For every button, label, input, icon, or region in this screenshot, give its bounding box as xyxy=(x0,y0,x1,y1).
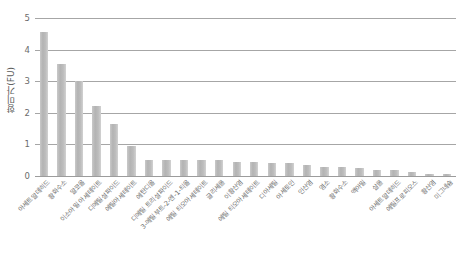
chart-container: 향미가(FU) 012345 아세트알데히드황화수소알코올이소아밀 아세테이트디… xyxy=(0,0,460,254)
bar xyxy=(40,32,48,176)
y-axis-tick-label: 4 xyxy=(25,45,30,55)
y-axis-title-text: 향미가(FU) xyxy=(4,67,17,113)
y-axis-tick-label: 1 xyxy=(25,139,30,149)
bar xyxy=(57,64,65,176)
y-axis-tick-label: 0 xyxy=(25,171,30,181)
bar xyxy=(268,163,276,176)
x-axis-tick-label: 살롤 xyxy=(372,179,385,192)
plot-area xyxy=(35,18,456,176)
x-axis-tick-label-text: 인산염 xyxy=(297,179,315,197)
y-axis-tick-label: 2 xyxy=(25,108,30,118)
bar xyxy=(92,106,100,176)
bar xyxy=(355,168,363,176)
bar xyxy=(338,167,346,176)
x-axis-tick-label: 황화수소 xyxy=(328,179,350,201)
bar xyxy=(215,160,223,176)
x-axis-tick-labels: 아세트알데히드황화수소알코올이소아밀 아세테이트디메틸설파이드에틸아세테이트에탄… xyxy=(35,176,456,254)
x-axis-tick-label-text: 황화수소 xyxy=(328,179,350,201)
bar xyxy=(303,165,311,176)
bar xyxy=(162,160,170,176)
y-axis-tick-labels: 012345 xyxy=(0,0,35,254)
bar xyxy=(110,124,118,176)
bar xyxy=(127,146,135,176)
bar xyxy=(320,167,328,176)
x-axis-tick-label: 인산염 xyxy=(297,179,315,197)
y-axis-title: 향미가(FU) xyxy=(0,0,20,180)
y-axis-tick-label: 5 xyxy=(25,13,30,23)
bar xyxy=(197,160,205,176)
x-axis-tick-label: 액아밀 xyxy=(350,179,368,197)
bar xyxy=(233,162,241,176)
bar-series xyxy=(35,18,456,176)
bar xyxy=(180,160,188,176)
bar xyxy=(75,81,83,176)
bar xyxy=(285,163,293,176)
x-axis-tick-label-text: 살롤 xyxy=(372,179,385,192)
bar xyxy=(145,160,153,176)
y-axis-tick-label: 3 xyxy=(25,76,30,86)
bar xyxy=(250,162,258,176)
x-axis-tick-label-text: 액아밀 xyxy=(350,179,368,197)
